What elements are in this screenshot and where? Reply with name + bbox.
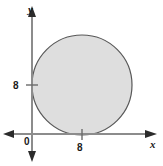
shaded-circle (32, 35, 132, 135)
arrow-right-icon (145, 130, 157, 138)
y-axis-tick-label-8: 8 (13, 81, 19, 91)
y-axis-label: y (28, 4, 33, 15)
arrow-down-icon (28, 151, 36, 162)
x-axis-label: x (150, 139, 156, 150)
origin-label: 0 (24, 137, 30, 147)
arrow-left-icon (3, 130, 14, 138)
x-axis-tick-label-8: 8 (77, 143, 83, 153)
figure-container: y x 0 8 8 (0, 0, 163, 166)
